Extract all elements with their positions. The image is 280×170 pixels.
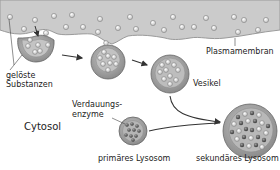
label-sekundaeres-lysosom: sekundäres Lysosom [196, 154, 279, 163]
arrow-primary-to-secondary [149, 123, 220, 131]
sekundaeres-lysosom [223, 104, 277, 158]
endocytosis-diagram: Plasmamembran gelöste Substanzen Vesikel… [0, 0, 280, 170]
label-primaeres-lysosom: primäres Lysosom [98, 154, 170, 163]
label-geloeste-line2: Substanzen [6, 80, 53, 89]
arrow-vesicle-to-secondary [170, 96, 220, 122]
label-plasmamembran: Plasmamembran [206, 47, 274, 56]
arrow-2 [132, 60, 147, 65]
label-vesikel: Vesikel [193, 79, 221, 88]
label-verdauungs-line1: Verdauungs- [72, 100, 122, 109]
label-verdauungs-line2: enzyme [72, 110, 104, 119]
budding-vesicle [91, 41, 125, 79]
arrow-1 [62, 55, 82, 58]
label-geloeste-line1: gelöste [6, 71, 35, 80]
vesikel [151, 55, 189, 93]
label-cytosol: Cytosol [24, 122, 61, 131]
primaeres-lysosom [119, 117, 147, 145]
